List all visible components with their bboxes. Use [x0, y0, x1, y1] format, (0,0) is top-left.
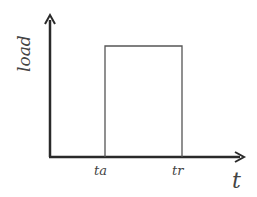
tick-label-tr: tr	[172, 163, 183, 178]
load-pulse	[105, 46, 182, 157]
tick-label-ta: ta	[94, 163, 107, 178]
y-axis	[45, 15, 55, 157]
x-axis	[49, 152, 244, 162]
y-axis-label: load	[14, 35, 34, 72]
load-time-diagram	[0, 0, 257, 197]
x-axis-label: t	[232, 168, 241, 193]
